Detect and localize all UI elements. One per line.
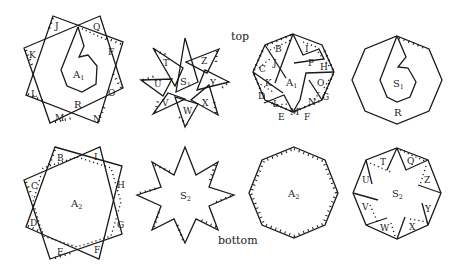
region-A1: A1	[285, 77, 297, 90]
flap-G: G	[117, 220, 124, 230]
flap-M: M	[290, 107, 299, 117]
flap-N: N	[308, 97, 316, 107]
flap-G: G	[322, 92, 329, 102]
flap-T: T	[380, 157, 386, 167]
flap-D: D	[30, 218, 37, 228]
region-R: R	[74, 99, 82, 110]
bottom-fig2-labels: S2	[180, 190, 191, 203]
bottom-fig3-labels: A2	[287, 188, 299, 201]
flap-B: B	[275, 44, 282, 54]
flap-L: L	[31, 89, 37, 99]
flap-W: W	[183, 106, 193, 116]
flap-N: N	[93, 114, 101, 124]
flap-V: V	[361, 202, 369, 212]
flap-I: I	[94, 152, 98, 162]
flap-I: I	[305, 44, 309, 54]
flap-E: E	[278, 112, 285, 122]
flap-Q: Q	[407, 156, 414, 166]
flap-X: X	[202, 98, 209, 108]
flap-L: L	[273, 99, 279, 109]
flap-E: E	[57, 247, 64, 257]
flap-Y: Y	[209, 78, 217, 88]
flap-J: J	[54, 21, 59, 31]
flap-K: K	[265, 78, 272, 88]
flap-X: X	[409, 222, 416, 232]
diagram-canvas: J Q K F L O M N A1 R T Z U Y V X W S1	[0, 0, 465, 275]
region-R: R	[394, 107, 402, 118]
region-S1: S1	[393, 78, 404, 91]
bottom-fig4-labels: T Q U Z V Y W X S2	[361, 156, 432, 233]
flap-U: U	[362, 175, 370, 185]
region-S2: S2	[392, 188, 403, 201]
region-S2: S2	[180, 190, 191, 203]
flap-H: H	[117, 180, 125, 190]
flap-M: M	[55, 113, 64, 123]
flap-Y: Y	[424, 204, 432, 214]
region-A2: A2	[70, 198, 82, 211]
flap-K: K	[29, 50, 36, 60]
region-A2: A2	[287, 188, 299, 201]
top-fig4-labels: S1 R	[393, 78, 404, 118]
flap-U: U	[154, 79, 162, 89]
flap-Z: Z	[424, 175, 430, 185]
flap-C: C	[31, 181, 38, 191]
top-fig3-labels: B I J P H C K O G D L N M E F A1	[258, 44, 329, 122]
flap-Q: Q	[93, 22, 100, 32]
caption-bottom: bottom	[218, 234, 258, 247]
flap-C: C	[259, 64, 266, 74]
region-A1: A1	[72, 69, 84, 82]
flap-V: V	[161, 98, 169, 108]
flap-O: O	[317, 78, 324, 88]
flap-F: F	[94, 245, 100, 255]
flap-W: W	[380, 223, 390, 233]
caption-top: top	[231, 30, 249, 43]
flap-D: D	[258, 91, 265, 101]
flap-H: H	[320, 62, 328, 72]
flap-J: J	[272, 58, 277, 68]
flap-F: F	[304, 112, 310, 122]
flap-F: F	[108, 47, 114, 57]
flap-P: P	[308, 58, 314, 68]
flap-B: B	[57, 153, 64, 163]
flap-Z: Z	[201, 56, 207, 66]
flap-O: O	[108, 88, 115, 98]
flap-T: T	[163, 58, 169, 68]
